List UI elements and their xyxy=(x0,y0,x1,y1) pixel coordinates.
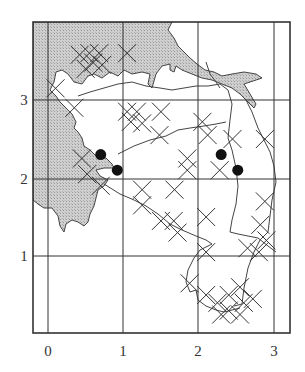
cross-marker-icon xyxy=(152,103,170,121)
cross-marker-icon xyxy=(165,212,183,230)
x-tick-2: 2 xyxy=(194,343,202,359)
cross-marker-icon xyxy=(220,302,238,320)
cross-marker-icon xyxy=(197,243,215,261)
y-tick-2: 2 xyxy=(20,171,28,187)
cross-marker-icon xyxy=(193,113,211,131)
x-tick-1: 1 xyxy=(119,343,127,359)
x-axis-ticks: 0 1 2 3 xyxy=(44,343,278,359)
dot-marker-icon xyxy=(216,149,227,160)
cross-marker-icon xyxy=(251,216,269,234)
cross-marker-icon xyxy=(250,243,268,261)
cross-marker-icon xyxy=(256,192,274,210)
cross-marker-icon xyxy=(178,150,196,168)
cross-marker-icon xyxy=(212,306,230,324)
cross-marker-icon xyxy=(169,224,187,242)
cross-marker-icon xyxy=(244,290,262,308)
cross-marker-icon xyxy=(150,126,168,144)
x-tick-0: 0 xyxy=(44,343,52,359)
cross-marker-icon xyxy=(197,208,215,226)
distribution-map: 0 1 2 3 1 2 3 xyxy=(0,0,305,372)
cross-marker-icon xyxy=(65,99,83,117)
dot-marker-icon xyxy=(232,165,243,176)
cross-marker-icon xyxy=(231,278,249,296)
y-tick-1: 1 xyxy=(20,248,28,264)
cross-marker-icon xyxy=(223,130,241,148)
cross-marker-icon xyxy=(211,161,229,179)
cross-marker-icon xyxy=(256,130,274,148)
cross-marker-icon xyxy=(199,126,217,144)
cross-marker-icon xyxy=(133,196,151,214)
cross-marker-icon xyxy=(220,286,238,304)
cross-marker-icon xyxy=(208,294,226,312)
x-tick-3: 3 xyxy=(270,343,278,359)
y-tick-3: 3 xyxy=(20,92,28,108)
dot-marker-icon xyxy=(112,165,123,176)
cross-marker-icon xyxy=(166,181,184,199)
cross-marker-icon xyxy=(133,181,151,199)
dot-marker-icon xyxy=(95,149,106,160)
y-axis-ticks: 1 2 3 xyxy=(20,92,28,264)
cross-marker-icon xyxy=(178,161,196,179)
cross-marker-icon xyxy=(197,286,215,304)
cross-marker-icon xyxy=(239,239,257,257)
